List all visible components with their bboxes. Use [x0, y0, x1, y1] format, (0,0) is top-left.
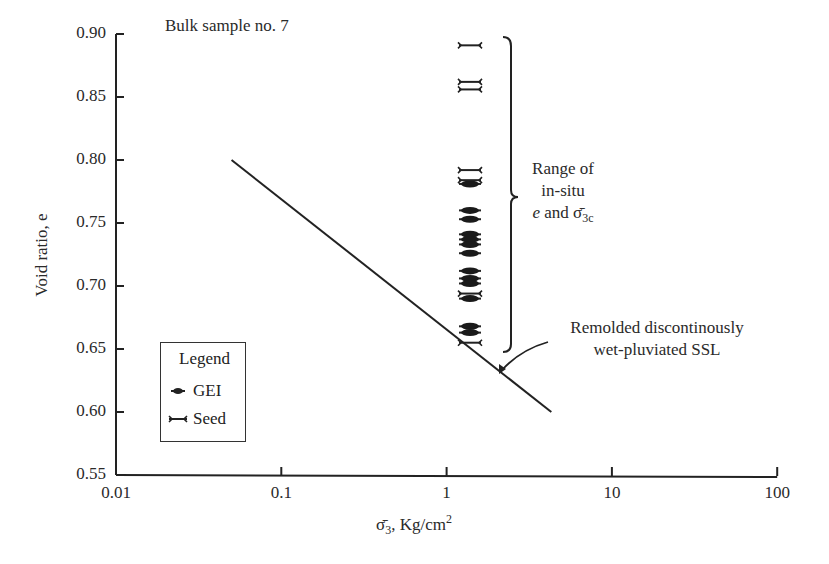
gei-marker — [459, 280, 481, 287]
x-label-sup: 2 — [446, 512, 452, 526]
gei-marker-icon — [167, 386, 189, 396]
seed-marker — [458, 86, 482, 92]
y-tick-label: 0.55 — [46, 464, 106, 484]
seed-marker-icon — [167, 414, 189, 424]
y-tick-label: 0.90 — [46, 23, 106, 43]
series-group — [232, 42, 552, 412]
seed-marker — [458, 79, 482, 85]
seed-marker — [458, 167, 482, 173]
ssl-line-2: wet-pluviated SSL — [557, 339, 757, 361]
x-label-unit: , Kg/cm — [391, 515, 446, 534]
range-brace — [503, 37, 518, 352]
ssl-line-1: Remolded discontinously — [557, 317, 757, 339]
y-tick-label: 0.85 — [46, 86, 106, 106]
y-axis-label: Void ratio, e — [31, 155, 53, 355]
legend-gei-label: GEI — [193, 381, 221, 401]
x-label-sigma: σ̄ — [376, 515, 385, 534]
range-annotation: Range of in-situ e and σ̄3c — [523, 158, 603, 229]
gei-marker — [459, 250, 481, 257]
range-sub: 3c — [582, 211, 593, 225]
range-line-1: Range of — [523, 158, 603, 180]
gei-marker — [459, 216, 481, 223]
x-tick-label: 0.01 — [86, 483, 146, 503]
x-tick-label: 1 — [417, 483, 477, 503]
range-line-2: in-situ — [523, 180, 603, 202]
x-axis-label: σ̄3, Kg/cm2 — [376, 508, 452, 541]
legend-title: Legend — [179, 349, 230, 369]
gei-marker — [459, 323, 481, 330]
gei-marker — [459, 267, 481, 274]
legend-item-gei: GEI — [167, 381, 221, 401]
y-tick-label: 0.80 — [46, 149, 106, 169]
chart-title: Bulk sample no. 7 — [165, 15, 289, 37]
range-sigma: and σ̄ — [540, 203, 582, 222]
legend-seed-label: Seed — [193, 409, 226, 429]
legend-item-seed: Seed — [167, 409, 226, 429]
chart-canvas — [0, 0, 829, 564]
gei-marker — [459, 295, 481, 302]
y-tick-label: 0.70 — [46, 275, 106, 295]
range-line-3: e and σ̄3c — [523, 202, 603, 229]
ssl-arrow — [501, 342, 548, 371]
gei-marker — [459, 241, 481, 248]
x-tick-label: 0.1 — [251, 483, 311, 503]
gei-marker — [459, 329, 481, 336]
y-tick-label: 0.65 — [46, 338, 106, 358]
y-tick-label: 0.60 — [46, 401, 106, 421]
x-tick-label: 10 — [582, 483, 642, 503]
ssl-annotation: Remolded discontinously wet-pluviated SS… — [557, 317, 757, 361]
legend-box: Legend GEI Seed — [160, 342, 246, 442]
gei-marker — [459, 180, 481, 187]
range-e: e — [532, 203, 540, 222]
y-tick-label: 0.75 — [46, 212, 106, 232]
seed-marker — [458, 42, 482, 48]
gei-marker — [459, 207, 481, 214]
ssl-line — [232, 160, 552, 412]
x-tick-label: 100 — [747, 483, 807, 503]
